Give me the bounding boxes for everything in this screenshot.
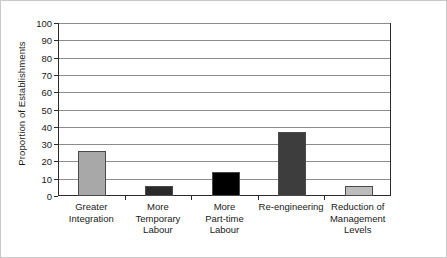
x-axis-label-5-line-2: Management [324,213,391,225]
x-axis-label-2: MoreTemporaryLabour [125,201,192,236]
y-tick-label-50: 50 [10,104,56,115]
x-axis-label-5-line-1: Reduction of [324,201,391,213]
y-tick-label-70: 70 [10,69,56,80]
x-tick-mark-1 [125,196,126,200]
x-axis-label-3-line-1: More [191,201,258,213]
bar-2[interactable] [145,186,173,196]
y-tick-label-100: 100 [10,18,56,29]
x-axis-label-2-line-2: Temporary [125,213,192,225]
x-tick-mark-2 [191,196,192,200]
x-tick-mark-4 [324,196,325,200]
x-axis-label-5: Reduction ofManagementLevels [324,201,391,236]
x-axis-label-3-line-2: Part-time [191,213,258,225]
x-axis-label-5-line-3: Levels [324,224,391,236]
x-axis-label-3: MorePart-timeLabour [191,201,258,236]
y-tick-label-30: 30 [10,139,56,150]
chart-figure: Proportion of Establishments 01020304050… [0,0,447,258]
bar-4[interactable] [278,132,306,196]
bars-layer [59,23,390,196]
x-axis-label-3-line-3: Labour [191,224,258,236]
y-tick-mark-0 [54,196,58,197]
bar-3[interactable] [212,172,240,196]
y-tick-label-0: 0 [10,191,56,202]
x-axis-label-1-line-1: Greater [58,201,125,213]
x-axis-label-4: Re-engineering [258,201,325,213]
x-axis-label-2-line-1: More [125,201,192,213]
y-tick-label-10: 10 [10,173,56,184]
y-tick-label-60: 60 [10,87,56,98]
y-tick-label-80: 80 [10,52,56,63]
x-axis-label-1: GreaterIntegration [58,201,125,224]
y-tick-label-40: 40 [10,121,56,132]
x-axis-label-2-line-3: Labour [125,224,192,236]
bar-5[interactable] [345,186,373,196]
x-axis-label-4-line-1: Re-engineering [258,201,325,213]
y-tick-label-20: 20 [10,156,56,167]
plot-area [58,23,391,196]
x-axis-label-1-line-2: Integration [58,213,125,225]
x-tick-mark-3 [258,196,259,200]
bar-1[interactable] [78,151,106,196]
y-tick-label-90: 90 [10,35,56,46]
